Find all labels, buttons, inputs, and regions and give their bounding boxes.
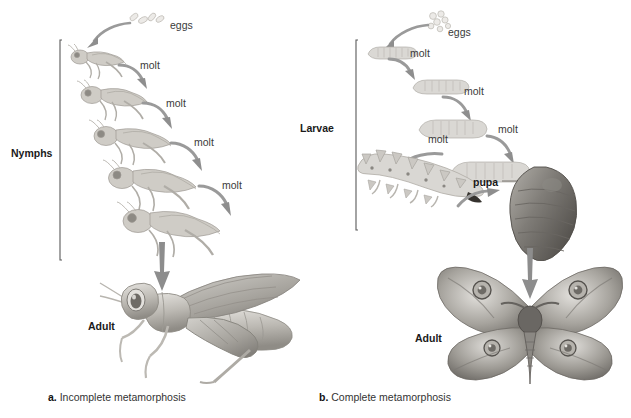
caption-b: b. Complete metamorphosis [319, 391, 451, 403]
eggs-label-a: eggs [170, 20, 193, 31]
panel-incomplete-metamorphosis: Nymphs eggs [0, 0, 316, 418]
larva-instar-3-art [414, 116, 490, 140]
caption-a-text: Incomplete metamorphosis [60, 391, 186, 403]
panel-complete-metamorphosis: Larvae eggs [316, 0, 631, 418]
bracket-label-larvae: Larvae [300, 123, 334, 134]
caption-b-marker: b. [319, 391, 328, 403]
adult-moth-art [432, 258, 628, 388]
eggs-label-b: eggs [448, 27, 471, 38]
adult-label-a: Adult [88, 321, 115, 332]
caption-a: a. Incomplete metamorphosis [48, 391, 186, 403]
nymph-instar-5-art [116, 202, 240, 260]
pupa-label: pupa [473, 177, 498, 188]
adult-label-b: Adult [415, 333, 442, 344]
bracket-label-nymphs: Nymphs [11, 148, 52, 159]
caption-b-text: Complete metamorphosis [331, 391, 451, 403]
larva-instar-2-art [409, 76, 471, 96]
adult-grasshopper-art [100, 262, 305, 384]
caption-a-marker: a. [48, 391, 57, 403]
arrow-larva-to-pupa [456, 186, 502, 212]
metamorphosis-figure: Nymphs eggs [0, 0, 631, 418]
